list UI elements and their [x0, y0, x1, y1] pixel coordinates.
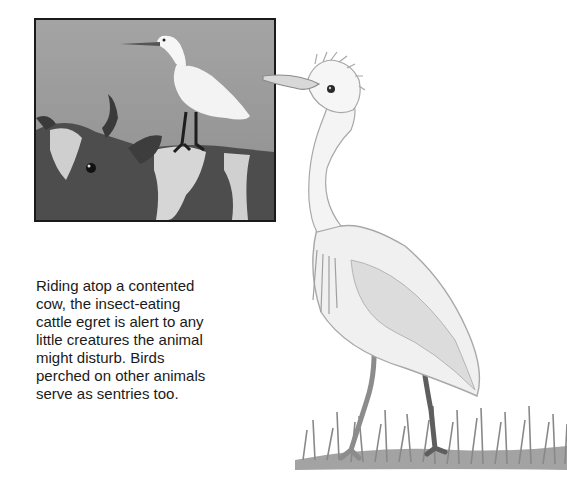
caption-line: might disturb. Birds: [36, 349, 276, 367]
caption-line: serve as sentries too.: [36, 385, 276, 403]
caption-text: Riding atop a contented cow, the insect-…: [36, 277, 276, 403]
egret-on-cow-image: [36, 20, 274, 220]
caption-line: perched on other animals: [36, 367, 276, 385]
cattle-egret-image: [255, 50, 567, 480]
caption-line: Riding atop a contented: [36, 277, 276, 295]
standing-egret-illustration: [255, 50, 567, 484]
caption-line: little creatures the animal: [36, 331, 276, 349]
caption-line: cow, the insect-eating: [36, 295, 276, 313]
inset-illustration: [34, 18, 276, 222]
caption-line: cattle egret is alert to any: [36, 313, 276, 331]
